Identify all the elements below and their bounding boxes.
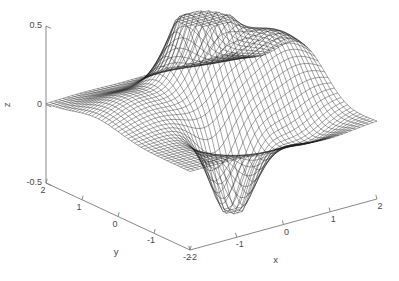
z-axis-label: z	[2, 102, 12, 107]
y-tick-label-0: 0	[112, 220, 117, 229]
x-axis-label: x	[273, 255, 278, 265]
y-tick-label-1: 1	[76, 203, 81, 212]
y-tick-label-neg1: -1	[147, 236, 155, 245]
x-tick-label-0: 0	[284, 228, 289, 237]
surface-plot-svg	[0, 0, 399, 281]
x-tick-label-neg2: -2	[189, 253, 197, 262]
x-tick-label-1: 1	[331, 215, 336, 224]
mesh-wireframe	[46, 11, 377, 214]
y-tick-label-2: 2	[40, 186, 45, 195]
z-tick-label-middle: 0	[37, 100, 42, 109]
figure-canvas: 0.5 0 -0.5 2 1 0 -1 -2 -2 -1 0 1 2 z y x	[0, 0, 399, 281]
z-tick-label-upper: 0.5	[29, 21, 42, 30]
x-tick-label-neg1: -1	[236, 240, 244, 249]
x-tick-label-2: 2	[377, 202, 382, 211]
y-axis-label: y	[114, 247, 119, 257]
